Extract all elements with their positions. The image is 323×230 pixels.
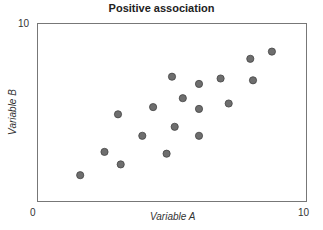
data-point [195,80,202,87]
data-point [268,48,275,55]
data-point [163,150,170,157]
data-point [195,132,202,139]
data-point [247,55,254,62]
scatter-points [0,0,323,230]
data-point [179,95,186,102]
data-point [171,123,178,130]
data-point [101,148,108,155]
data-point [249,77,256,84]
data-point [168,73,175,80]
data-point [217,75,224,82]
data-point [195,105,202,112]
data-point [77,172,84,179]
data-point [114,111,121,118]
data-point [139,132,146,139]
data-point [117,161,124,168]
data-point [225,100,232,107]
x-axis-label: Variable A [150,211,195,222]
data-point [150,104,157,111]
y-axis-label: Variable B [7,89,18,135]
